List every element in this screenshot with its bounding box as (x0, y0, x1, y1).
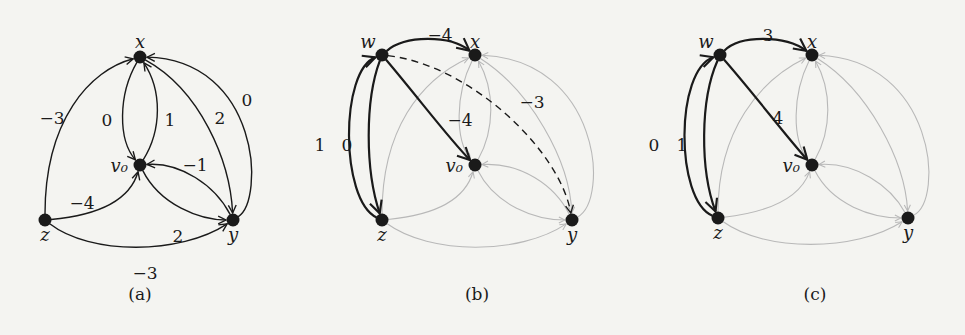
edge-weight-w-z: 0 (342, 135, 353, 155)
edge-y-to-x (482, 55, 593, 217)
node-label-x: x (135, 31, 145, 52)
node-label-y: y (566, 224, 578, 245)
node-label-x: x (470, 31, 480, 52)
edge-x-to-y (480, 58, 572, 213)
edge-z-to-x (45, 59, 133, 214)
edge-w-to-z (704, 60, 717, 211)
edge-w-to-v0 (724, 60, 807, 160)
edge-weight-w-z: 1 (677, 135, 688, 155)
edge-weight-x-y: 2 (215, 108, 226, 128)
node-label-w: w (698, 31, 714, 52)
edge-z-to-x (382, 58, 469, 214)
caption-panel-1: (b) (465, 284, 489, 304)
node-label-x: x (807, 31, 817, 52)
edge-weight-z-x: −3 (39, 108, 64, 128)
edge-z-to-v0 (724, 172, 810, 218)
edge-weight-w-x: 3 (763, 25, 774, 45)
edge-x-to-y (817, 58, 908, 211)
edge-v0-to-y (815, 170, 901, 218)
edge-w-to-y (388, 56, 571, 213)
node-label-v0: v₀ (783, 155, 800, 176)
edge-weight-z-y: −3 (132, 263, 157, 283)
node-label-v0: v₀ (111, 155, 128, 176)
edge-z-to-y (50, 224, 227, 248)
edge-z-to-w (349, 57, 377, 217)
edge-weight-y-v0: −1 (182, 155, 207, 175)
edge-y-to-v0 (819, 164, 905, 212)
panel-a: −30120−1−42−3xv₀zy(a) (39, 31, 253, 304)
edge-weight-w-y: −3 (519, 92, 544, 112)
edge-w-to-z (369, 61, 380, 214)
node-v0 (134, 159, 147, 172)
edge-v0-to-x (143, 63, 157, 160)
panel-b: −3−4−410wxv₀zy(b) (315, 25, 594, 304)
edge-x-to-v0 (796, 60, 809, 159)
edge-v0-to-y (478, 170, 565, 220)
edge-x-to-v0 (123, 62, 137, 160)
edge-weight-z-w: 1 (315, 135, 326, 155)
edge-v0-to-x (815, 61, 828, 160)
edge-weight-z-v0: −4 (69, 193, 94, 213)
caption-panel-2: (c) (804, 284, 827, 304)
edge-y-to-x (147, 57, 252, 217)
caption-panel-0: (a) (128, 284, 151, 304)
edge-weight-w-v0: −4 (447, 110, 472, 130)
edge-x-to-y (145, 60, 232, 213)
node-w (714, 49, 727, 62)
node-v0 (469, 159, 482, 172)
edge-z-to-y (723, 222, 902, 245)
node-label-w: w (360, 31, 376, 52)
node-label-z: z (39, 224, 50, 245)
edge-z-to-y (387, 224, 566, 248)
edge-z-to-x (718, 58, 806, 212)
diagram-canvas: −30120−1−42−3xv₀zy(a) −3−4−410wxv₀zy(b) … (0, 0, 965, 335)
node-v0 (806, 159, 819, 172)
edge-v0-to-x (478, 61, 491, 160)
node-label-z: z (712, 222, 723, 243)
edge-weight-y-x: 0 (242, 90, 253, 110)
edge-y-to-v0 (482, 164, 569, 214)
edge-v0-to-y (143, 170, 226, 220)
node-label-y: y (902, 222, 914, 243)
edge-y-to-x (819, 55, 929, 215)
node-w (376, 49, 389, 62)
node-x (134, 51, 147, 64)
edge-weight-x-v0: 0 (102, 110, 113, 130)
edge-z-to-v0 (388, 172, 473, 220)
node-label-y: y (227, 224, 239, 245)
node-label-v0: v₀ (446, 155, 463, 176)
edge-weight-w-x: −4 (427, 25, 452, 45)
panel-c: 3401wxv₀zy(c) (649, 25, 929, 304)
edge-weight-w-v0: 4 (773, 108, 784, 128)
edge-weight-z-w: 0 (649, 135, 660, 155)
edge-weight-v0-x: 1 (165, 110, 176, 130)
node-label-z: z (376, 224, 387, 245)
